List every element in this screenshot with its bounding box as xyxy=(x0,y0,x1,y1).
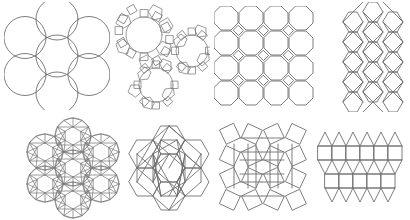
rosette-cluster-a xyxy=(115,5,173,68)
hexagram-triangle-tiling-drawing xyxy=(128,118,210,218)
square-cell xyxy=(353,174,367,188)
octagon-cell xyxy=(239,31,263,55)
wheel-ring-5 xyxy=(27,166,63,202)
octagon-cell xyxy=(264,31,288,55)
snub-square-cell xyxy=(216,164,244,192)
square-band-lower xyxy=(325,174,395,188)
octagon-row xyxy=(214,31,313,55)
snub-square-grid xyxy=(216,120,310,214)
wheel-ring-1 xyxy=(55,118,91,154)
octagon-cell xyxy=(289,6,313,30)
wheel-ring-2 xyxy=(83,134,119,170)
square-cell xyxy=(360,146,374,160)
ring-square xyxy=(172,48,179,55)
snub-row-2 xyxy=(216,142,310,170)
square-cell xyxy=(374,146,388,160)
ring-b-squares xyxy=(172,28,211,74)
ring-pentagon xyxy=(195,25,206,37)
square-cell xyxy=(381,174,395,188)
square-band-upper xyxy=(318,146,402,160)
panel-hexagon-triangle-columns: Hexagon triangle column lattice xyxy=(338,2,408,112)
octagon-row xyxy=(214,81,313,105)
seven-circle-packing-drawing xyxy=(4,2,110,110)
square-cell xyxy=(332,146,346,160)
ring-square xyxy=(115,27,123,35)
square-cell xyxy=(346,146,360,160)
snub-square-cell xyxy=(260,120,288,148)
circle-ring-5 xyxy=(4,54,46,96)
rosette-cluster-c xyxy=(128,59,178,109)
hexagon-triangle-columns-drawing xyxy=(338,2,408,112)
snub-square-cell xyxy=(260,186,288,214)
octagon-cell xyxy=(264,6,288,30)
square-cell xyxy=(259,76,269,86)
square-cell xyxy=(339,174,353,188)
snub-square-cell xyxy=(238,164,266,192)
snub-square-cell xyxy=(238,120,266,148)
square-cell xyxy=(284,76,294,86)
wheel-ring-4 xyxy=(55,182,91,218)
snub-square-cell xyxy=(260,142,288,170)
square-cell xyxy=(234,26,244,36)
octagon-cell xyxy=(289,56,313,80)
octagon-cell xyxy=(214,56,238,80)
snub-square-cell xyxy=(216,120,244,148)
snub-square-cell xyxy=(216,186,244,214)
circle-ring-1 xyxy=(36,2,78,40)
triangle-row-middle xyxy=(318,160,402,174)
ring-square xyxy=(189,67,196,74)
ring-pentagon xyxy=(139,55,154,68)
square-cell xyxy=(367,174,381,188)
ring-square xyxy=(126,48,136,58)
octagon-cell xyxy=(214,31,238,55)
panel-snub-square-tiling: Snub square tiling 3.3.4.3.4 xyxy=(216,120,310,218)
subdivided-circle-rosette-drawing xyxy=(18,116,128,220)
snub-square-cell xyxy=(238,142,266,170)
snub-square-tiling-drawing xyxy=(216,120,310,218)
dodecagon-rosette-drawing xyxy=(110,2,210,112)
snub-square-cell xyxy=(260,164,288,192)
square-cell xyxy=(284,26,294,36)
snub-connector-lines xyxy=(234,138,292,196)
octagon-cell xyxy=(239,56,263,80)
square-cell xyxy=(388,146,402,160)
panel-hexagram-triangle-tiling: Hexagram triangle tiling xyxy=(128,118,210,218)
panel-octagon-square-tiling: Octagon square tiling 4.8.8 xyxy=(214,6,314,106)
circle-ring-2 xyxy=(68,17,110,59)
circle-ring-3 xyxy=(68,54,110,96)
snub-square-cell xyxy=(282,186,310,214)
snub-square-cell xyxy=(238,186,266,214)
ring-square xyxy=(166,36,174,44)
ring-square xyxy=(161,22,171,32)
octagon-row xyxy=(214,6,313,30)
wheel-ring-3 xyxy=(83,166,119,202)
ring-square xyxy=(171,82,178,89)
ring-square xyxy=(189,28,196,35)
wheel-ring-6 xyxy=(27,134,63,170)
ring-c-squares xyxy=(134,61,178,109)
square-cell xyxy=(234,51,244,61)
circle-ring-4 xyxy=(36,72,78,110)
octagon-cell xyxy=(214,81,238,105)
panel-dodecagon-square-pentagon-rosette: Dodecagon square pentagon rosette xyxy=(110,2,210,112)
ring-square xyxy=(153,102,160,109)
snub-row-4 xyxy=(216,186,310,214)
hexagon-columns xyxy=(343,2,403,112)
hexagon-column-left xyxy=(343,12,363,112)
ring-square xyxy=(127,5,137,15)
octagon-cell xyxy=(289,31,313,55)
elongated-triangular-tiling-drawing xyxy=(312,122,408,216)
panel-elongated-triangular-tiling: Elongated triangular tiling 3.3.3.4.4 xyxy=(312,122,408,216)
octagon-cell xyxy=(239,81,263,105)
wheel-center xyxy=(55,150,91,186)
octagon-cell xyxy=(214,6,238,30)
square-cell xyxy=(318,146,332,160)
octagon-cell xyxy=(264,56,288,80)
ring-a-pentagons xyxy=(116,5,173,68)
square-cell xyxy=(234,76,244,86)
rosette-cluster-b xyxy=(172,25,211,74)
square-cell xyxy=(259,26,269,36)
circle-center xyxy=(36,35,78,77)
octagon-cell xyxy=(239,6,263,30)
snub-row-3 xyxy=(216,164,310,192)
